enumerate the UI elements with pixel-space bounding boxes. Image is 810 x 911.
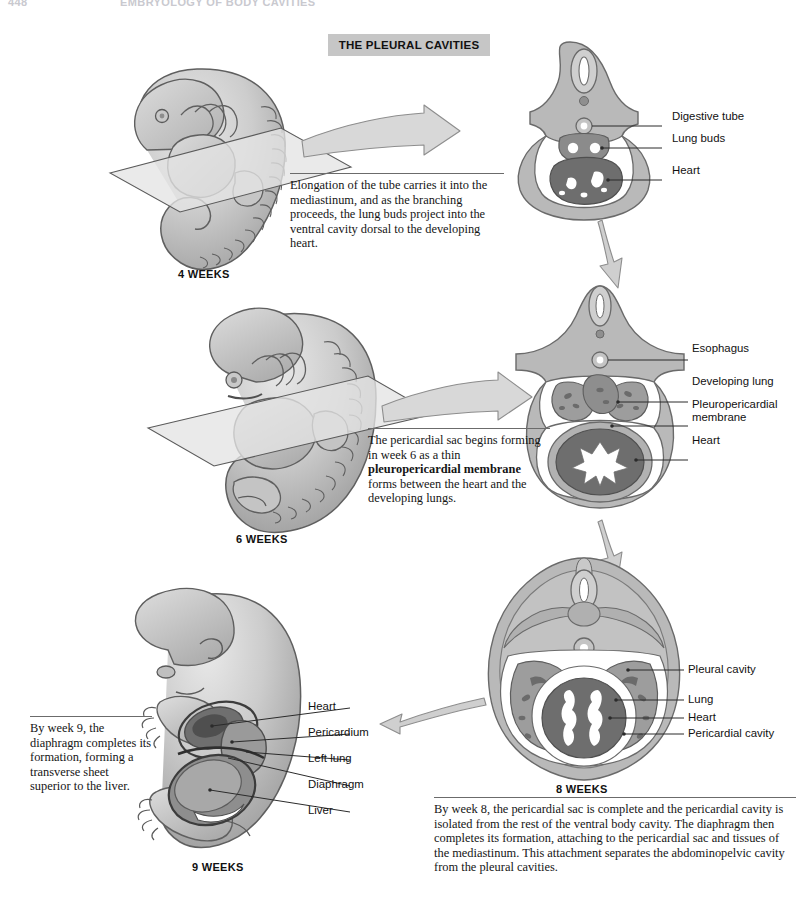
- week-label-8: 8 WEEKS: [556, 783, 608, 795]
- label-esophagus: Esophagus: [692, 342, 749, 355]
- label-heart-4wk: Heart: [672, 164, 700, 177]
- arrow-4-weeks-to-section: [300, 105, 480, 175]
- cross-section-8-weeks: [478, 552, 690, 782]
- running-head: 448 EMBRYOLOGY OF BODY CAVITIES: [0, 0, 810, 12]
- label-left-lung: Left lung: [308, 752, 352, 765]
- label-pericardium: Pericardium: [308, 726, 369, 739]
- label-pleural-cavity: Pleural cavity: [688, 663, 756, 676]
- note-6-part1: The pericardial sac begins forming in we…: [368, 433, 541, 462]
- note-4-weeks: Elongation of the tube carries it into t…: [290, 173, 504, 251]
- label-liver: Liver: [308, 804, 333, 817]
- label-pleuropericardial-membrane: Pleuropericardial membrane: [692, 398, 792, 425]
- note-6-bold-term: pleuropericardial membrane: [368, 462, 521, 476]
- label-heart-6wk: Heart: [692, 434, 720, 447]
- note-6-weeks-text: The pericardial sac begins forming in we…: [368, 433, 550, 506]
- week-label-6: 6 WEEKS: [236, 533, 288, 545]
- figure-title: THE PLEURAL CAVITIES: [339, 39, 480, 51]
- cross-section-4-weeks: [498, 38, 668, 218]
- label-lung-8wk: Lung: [688, 693, 713, 706]
- note-rule: [30, 716, 152, 717]
- note-rule: [434, 797, 796, 798]
- arrow-8-to-9-weeks: [378, 694, 488, 736]
- note-rule: [290, 173, 504, 174]
- label-pericardial-cavity: Pericardial cavity: [688, 727, 774, 740]
- label-digestive-tube: Digestive tube: [672, 110, 744, 123]
- figure-page: 448 EMBRYOLOGY OF BODY CAVITIES THE PLEU…: [0, 0, 810, 911]
- note-8-weeks-text: By week 8, the pericardial sac is comple…: [434, 802, 796, 875]
- arrow-down-4-to-6: [596, 218, 636, 290]
- page-folio: 448: [8, 0, 28, 8]
- note-8-weeks: By week 8, the pericardial sac is comple…: [434, 797, 796, 875]
- week-label-9: 9 WEEKS: [192, 861, 244, 873]
- week-label-4: 4 WEEKS: [178, 268, 230, 280]
- figure-title-banner: THE PLEURAL CAVITIES: [328, 34, 490, 56]
- label-diaphragm: Diaphragm: [308, 778, 364, 791]
- label-heart-8wk: Heart: [688, 711, 716, 724]
- note-9-weeks-text: By week 9, the diaphragm completes its f…: [30, 721, 152, 794]
- label-developing-lung: Developing lung: [692, 375, 774, 388]
- label-lung-buds: Lung buds: [672, 132, 725, 145]
- note-6-part2: forms between the heart and the developi…: [368, 477, 527, 506]
- note-rule: [368, 428, 550, 429]
- note-6-weeks: The pericardial sac begins forming in we…: [368, 428, 550, 506]
- running-title: EMBRYOLOGY OF BODY CAVITIES: [120, 0, 316, 8]
- note-9-weeks: By week 9, the diaphragm completes its f…: [30, 716, 152, 794]
- label-heart-9wk: Heart: [308, 700, 336, 713]
- note-4-weeks-text: Elongation of the tube carries it into t…: [290, 178, 504, 251]
